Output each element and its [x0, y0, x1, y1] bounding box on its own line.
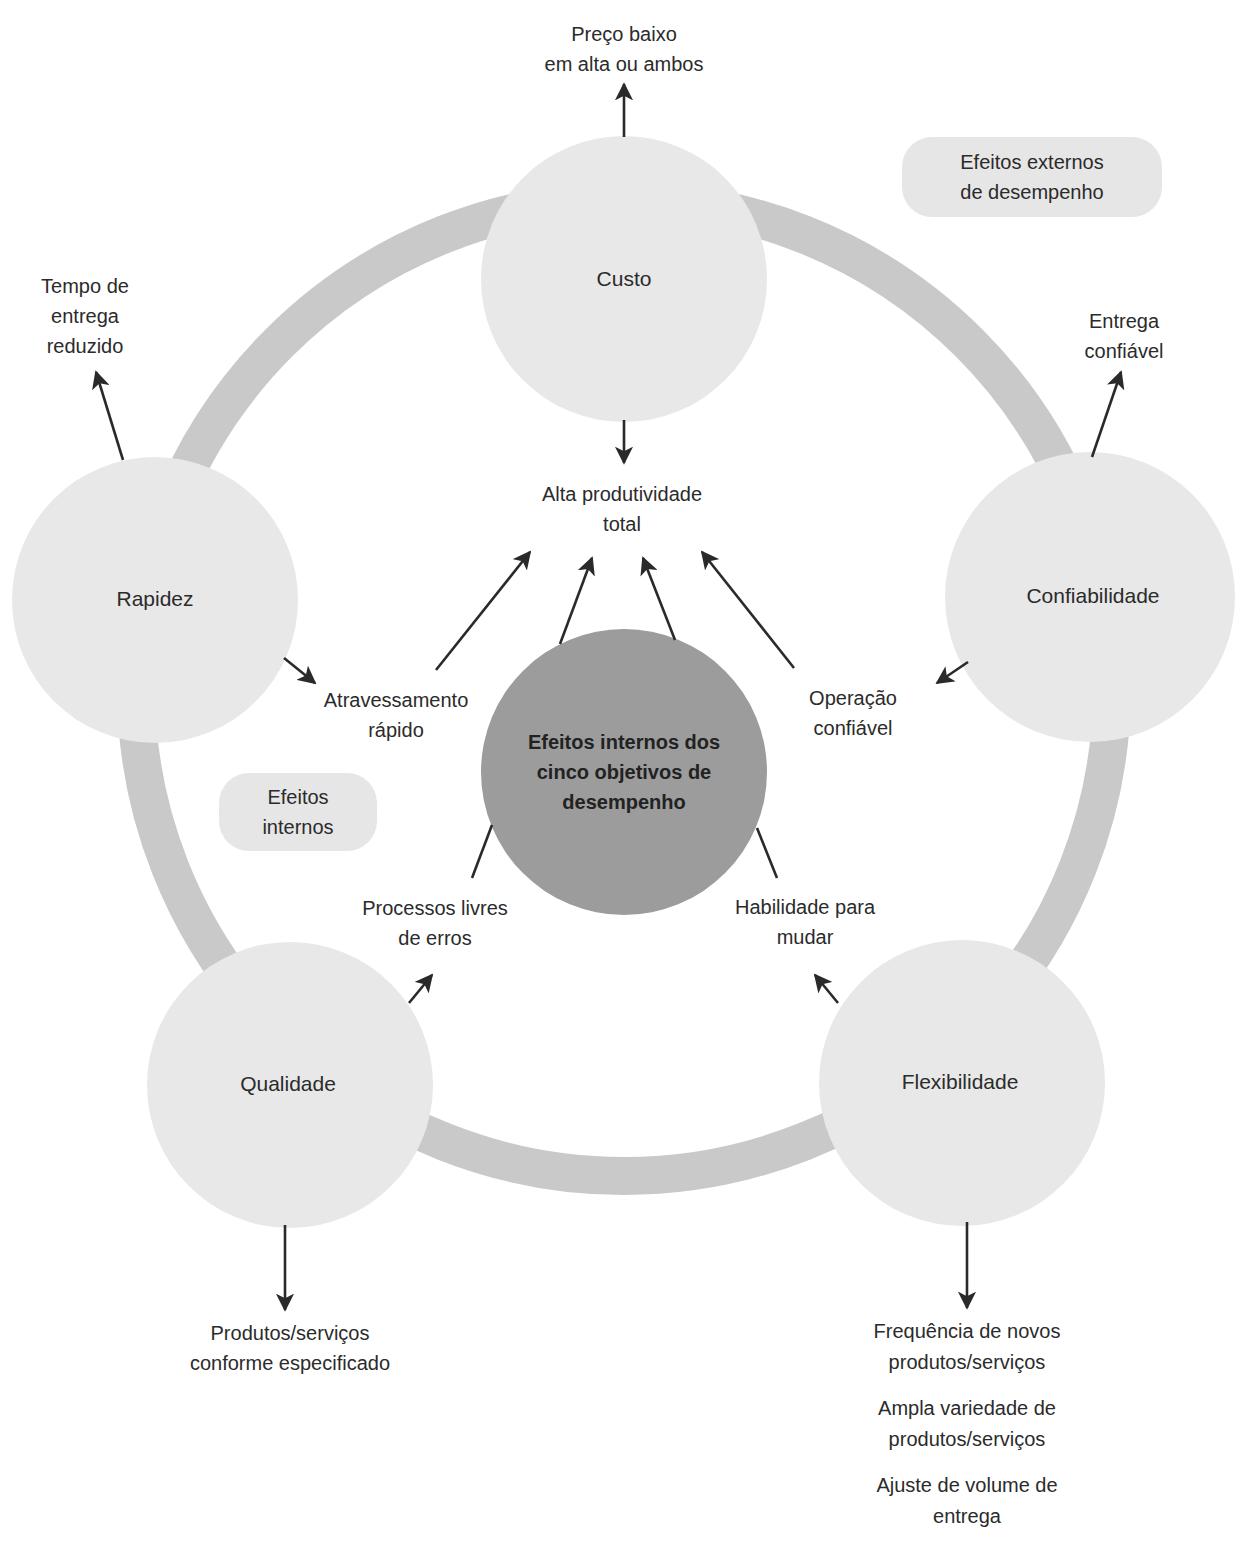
qualidade-internal-effect: Processos livres de erros — [362, 893, 508, 953]
label-custo: Custo — [597, 264, 652, 294]
text-line: de desempenho — [960, 177, 1103, 207]
text-line: produtos/serviços — [878, 1423, 1056, 1454]
text-line: Produtos/serviços — [190, 1318, 390, 1348]
text-line: Efeitos externos — [960, 147, 1103, 177]
arrow-rapidez-internal — [284, 658, 315, 683]
legend-internal-effects: Efeitos internos — [219, 773, 377, 851]
text-line: Habilidade para — [735, 892, 875, 922]
label-flexibilidade: Flexibilidade — [902, 1067, 1019, 1097]
rapidez-internal-effect: Atravessamento rápido — [324, 685, 469, 745]
text-line: rápido — [324, 715, 469, 745]
text-line: Efeitos — [267, 782, 328, 812]
text-line: Alta produtividade — [542, 479, 702, 509]
label-qualidade: Qualidade — [240, 1069, 336, 1099]
effect-group-ajuste-volume: Ajuste de volume de entrega — [876, 1470, 1057, 1531]
label-rapidez: Rapidez — [116, 584, 193, 614]
arrow-atravessamento-to-hub — [436, 552, 530, 670]
arrow-operacao-to-hub — [702, 552, 794, 668]
arrow-center-to-hub-right — [643, 558, 675, 640]
text-line: entrega — [876, 1500, 1057, 1531]
arrow-rapidez-external — [96, 372, 123, 460]
effect-group-novos-produtos: Frequência de novos produtos/serviços — [874, 1316, 1061, 1377]
confiabilidade-internal-effect: Operação confiável — [809, 683, 897, 743]
text-line: mudar — [735, 922, 875, 952]
text-line: conforme especificado — [190, 1348, 390, 1378]
effect-group-ampla-variedade: Ampla variedade de produtos/serviços — [878, 1393, 1056, 1454]
arrow-center-to-hub-left — [560, 558, 592, 644]
text-line: Ajuste de volume de — [876, 1470, 1057, 1501]
legend-external-effects: Efeitos externos de desempenho — [902, 137, 1162, 217]
text-line: Operação — [809, 683, 897, 713]
label-confiabilidade: Confiabilidade — [1026, 581, 1159, 611]
arrow-qualidade-internal — [409, 975, 432, 1003]
text-line: Entrega — [1085, 306, 1164, 336]
center-title: Efeitos internos dos cinco objetivos de … — [528, 727, 720, 817]
connector-center-habilidade — [757, 828, 777, 878]
arrow-confiabilidade-external — [1092, 372, 1121, 457]
text-line: Tempo de — [41, 271, 129, 301]
confiabilidade-external-effect: Entrega confiável — [1085, 306, 1164, 366]
text-line: Ampla variedade de — [878, 1393, 1056, 1424]
custo-external-effect: Preço baixo em alta ou ambos — [545, 19, 704, 79]
arrow-confiabilidade-internal — [937, 662, 968, 683]
text-line: produtos/serviços — [874, 1346, 1061, 1377]
connector-center-processos — [472, 825, 492, 878]
text-line: Efeitos internos dos — [528, 727, 720, 757]
flexibilidade-external-effects: Frequência de novos produtos/serviços Am… — [874, 1316, 1061, 1531]
text-line: entrega — [41, 301, 129, 331]
arrow-flexibilidade-internal — [815, 975, 838, 1003]
qualidade-external-effect: Produtos/serviços conforme especificado — [190, 1318, 390, 1378]
flexibilidade-internal-effect: Habilidade para mudar — [735, 892, 875, 952]
text-line: internos — [262, 812, 333, 842]
text-line: cinco objetivos de — [528, 757, 720, 787]
text-line: em alta ou ambos — [545, 49, 704, 79]
text-line: reduzido — [41, 331, 129, 361]
text-line: total — [542, 509, 702, 539]
text-line: de erros — [362, 923, 508, 953]
text-line: Processos livres — [362, 893, 508, 923]
text-line: confiável — [1085, 336, 1164, 366]
text-line: confiável — [809, 713, 897, 743]
hub-high-productivity: Alta produtividade total — [542, 479, 702, 539]
text-line: desempenho — [528, 787, 720, 817]
rapidez-external-effect: Tempo de entrega reduzido — [41, 271, 129, 361]
text-line: Atravessamento — [324, 685, 469, 715]
text-line: Frequência de novos — [874, 1316, 1061, 1347]
text-line: Preço baixo — [545, 19, 704, 49]
